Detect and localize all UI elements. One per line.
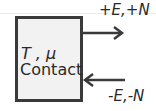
incoming-arrow (85, 74, 125, 86)
outgoing-arrow (82, 27, 122, 39)
incoming-arrow-label: -E,-N (108, 87, 144, 105)
outgoing-arrow-label: +E,+N (99, 1, 150, 19)
